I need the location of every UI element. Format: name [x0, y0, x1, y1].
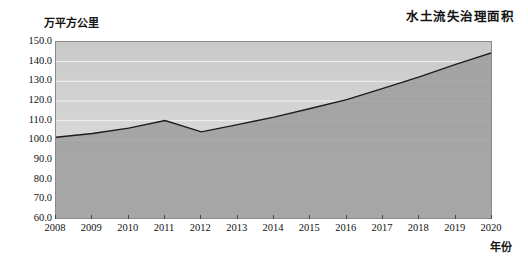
x-axis-tick-label: 2019 [444, 222, 465, 234]
y-axis-tick-label: 140.0 [0, 56, 52, 66]
y-axis-tick-label: 70.0 [0, 193, 52, 203]
x-axis-tick-labels: 2008200920102011201220132014201520162017… [55, 222, 492, 238]
x-axis-tick-mark [382, 215, 383, 219]
x-axis-tick-marks [55, 215, 492, 220]
x-axis-tick-mark [55, 215, 56, 219]
x-axis-tick-mark [273, 215, 274, 219]
x-axis-tick-label: 2020 [481, 222, 502, 234]
x-axis-tick-label: 2008 [45, 222, 66, 234]
chart-container: 水土流失治理面积 万平方公里 150.0140.0130.0120.0110.0… [0, 0, 528, 261]
x-axis-tick-label: 2017 [372, 222, 393, 234]
x-axis-tick-mark [237, 215, 238, 219]
x-axis-tick-label: 2016 [335, 222, 356, 234]
x-axis-tick-mark [128, 215, 129, 219]
x-axis-tick-label: 2010 [117, 222, 138, 234]
x-axis-tick-label: 2015 [299, 222, 320, 234]
chart-title: 水土流失治理面积 [406, 6, 514, 25]
y-axis-tick-label: 90.0 [0, 154, 52, 164]
y-axis-tick-label: 130.0 [0, 75, 52, 85]
x-axis-tick-mark [455, 215, 456, 219]
y-axis-tick-labels: 150.0140.0130.0120.0110.0100.090.080.070… [0, 41, 52, 219]
y-axis-unit-label: 万平方公里 [44, 14, 99, 30]
x-axis-tick-label: 2012 [190, 222, 211, 234]
area-fill-path [56, 53, 492, 219]
x-axis-tick-mark [491, 215, 492, 219]
x-axis-tick-label: 2013 [226, 222, 247, 234]
x-axis-caption: 年份 [490, 238, 512, 254]
y-axis-tick-label: 100.0 [0, 134, 52, 144]
x-axis-tick-mark [91, 215, 92, 219]
plot-svg [56, 42, 492, 219]
x-axis-tick-mark [418, 215, 419, 219]
x-axis-tick-label: 2018 [408, 222, 429, 234]
y-axis-tick-label: 120.0 [0, 95, 52, 105]
y-axis-tick-label: 80.0 [0, 174, 52, 184]
x-axis-tick-mark [164, 215, 165, 219]
y-axis-tick-label: 110.0 [0, 115, 52, 125]
x-axis-tick-label: 2014 [263, 222, 284, 234]
y-axis-tick-label: 150.0 [0, 36, 52, 46]
x-axis-tick-mark [346, 215, 347, 219]
x-axis-tick-mark [200, 215, 201, 219]
plot-area [55, 41, 492, 219]
x-axis-tick-label: 2009 [81, 222, 102, 234]
x-axis-tick-mark [309, 215, 310, 219]
x-axis-tick-label: 2011 [154, 222, 175, 234]
